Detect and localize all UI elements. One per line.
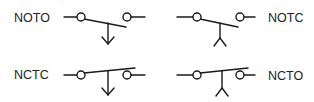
switch-blade-open xyxy=(84,19,126,27)
terminal-right-icon xyxy=(123,13,131,21)
switch-symbol-diagram: NOTO NOTC NCTC xyxy=(0,0,314,102)
symbol-ncto: NCTO xyxy=(177,68,303,96)
terminal-right-icon xyxy=(236,13,244,21)
symbol-noto: NOTO xyxy=(14,11,145,44)
tripod-actuator-icon xyxy=(214,23,226,46)
symbol-notc: NOTC xyxy=(177,11,303,46)
label-notc: NOTC xyxy=(268,11,303,25)
label-noto: NOTO xyxy=(14,11,50,25)
terminal-left-icon xyxy=(77,71,85,79)
arrow-down-icon xyxy=(102,71,114,95)
terminal-left-icon xyxy=(193,13,201,21)
tripod-actuator-icon xyxy=(216,71,228,96)
terminal-right-icon xyxy=(236,71,244,79)
terminal-left-icon xyxy=(77,13,85,21)
label-nctc: NCTC xyxy=(14,68,49,82)
symbol-nctc: NCTC xyxy=(14,68,145,95)
arrow-down-icon xyxy=(102,23,114,44)
terminal-left-icon xyxy=(193,71,201,79)
switch-blade-open xyxy=(200,19,238,27)
label-ncto: NCTO xyxy=(268,69,303,83)
terminal-right-icon xyxy=(123,71,131,79)
diagram-svg: NOTO NOTC NCTC xyxy=(0,0,314,102)
